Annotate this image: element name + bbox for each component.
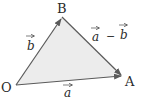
vector-diagram: O B A b a a − b — [0, 0, 144, 103]
vertex-label-o: O — [1, 80, 12, 95]
vertex-label-b: B — [57, 1, 67, 16]
edge-label-a-minus-b-a: a — [92, 30, 99, 44]
edge-label-b: b — [27, 39, 35, 53]
edge-label-minus: − — [106, 30, 115, 43]
edge-label-a: a — [64, 86, 71, 100]
edge-label-a-minus-b-b: b — [120, 28, 128, 42]
vertex-label-a: A — [124, 74, 135, 89]
